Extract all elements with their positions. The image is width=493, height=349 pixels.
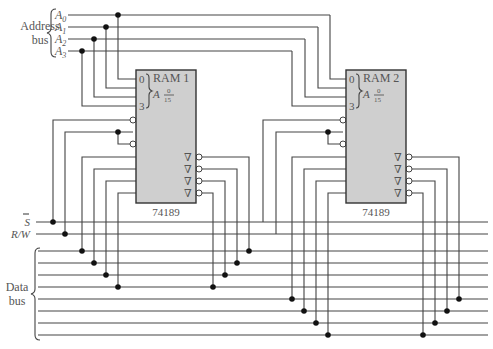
junction-dot (62, 231, 68, 237)
tristate-icon: ∇ (184, 151, 192, 163)
ram2-rw-wire (276, 132, 343, 234)
ram2-addr-top: 0 (349, 73, 355, 85)
junction-dot (289, 296, 295, 302)
data-bus-brace (31, 248, 40, 340)
data-bus-label-2: bus (9, 294, 26, 308)
tristate-icon: ∇ (394, 187, 402, 199)
tristate-icon: ∇ (394, 151, 402, 163)
tristate-icon: ∇ (394, 163, 402, 175)
junction-dot (313, 320, 319, 326)
ram1-name: RAM 1 (153, 71, 189, 85)
ram2-addr-bottom: 3 (349, 100, 355, 112)
junction-dot (234, 260, 240, 266)
ram1-chip: 0 3 RAM 1 A 0 15 ∇ ∇ ∇ ∇ 74189 (136, 70, 196, 218)
ram1-we-bubble (130, 141, 136, 147)
junction-dot (115, 12, 121, 18)
junction-dot (456, 296, 462, 302)
ram2-select-bubble (340, 117, 346, 123)
ram-expansion-diagram: Address bus A0 A1 A2 A3 S R/W (0, 0, 493, 349)
rw-label: R/W (10, 228, 31, 240)
junction-dot (103, 24, 109, 30)
ram2-range-bottom: 15 (374, 96, 382, 104)
ram2-chip: 0 3 RAM 2 A 0 15 ∇ ∇ ∇ ∇ 74189 (346, 70, 406, 218)
junction-dot (301, 308, 307, 314)
ram1-rw-wire (65, 132, 133, 234)
junction-dot (210, 284, 216, 290)
ram2-addr-letter: A (362, 88, 370, 100)
ram2-data-outputs (406, 154, 462, 338)
select-label: S (25, 216, 31, 228)
ram1-range-bottom: 15 (164, 96, 172, 104)
ram1-range-top: 0 (167, 87, 171, 95)
junction-dot (222, 272, 228, 278)
junction-dot (91, 36, 97, 42)
ram2-we-bubble (340, 141, 346, 147)
junction-dot (325, 332, 331, 338)
junction-dot (79, 248, 85, 254)
junction-dot (91, 260, 97, 266)
tristate-icon: ∇ (184, 187, 192, 199)
junction-dot (246, 248, 252, 254)
ram2-part-number: 74189 (362, 206, 390, 218)
data-bus: Data bus (6, 248, 488, 340)
ram1-addr-bottom: 3 (139, 100, 145, 112)
tristate-icon: ∇ (394, 175, 402, 187)
ram2-addr-a0-wire (330, 15, 346, 79)
ram1-addr-a0-wire (118, 15, 136, 79)
junction-dot (115, 284, 121, 290)
ram1-addr-letter: A (152, 88, 160, 100)
junction-dot (325, 129, 331, 135)
ram1-addr-top: 0 (139, 73, 145, 85)
junction-dot (79, 48, 85, 54)
tristate-icon: ∇ (184, 163, 192, 175)
junction-dot (115, 129, 121, 135)
data-bus-label-1: Data (6, 280, 29, 294)
ram2-select-wire (263, 120, 343, 222)
ram2-name: RAM 2 (363, 71, 399, 85)
junction-dot (103, 272, 109, 278)
junction-dot (432, 320, 438, 326)
ram2-range-top: 0 (377, 87, 381, 95)
ram1-data-inputs (79, 157, 136, 290)
ram1-select-bubble (130, 117, 136, 123)
ram1-part-number: 74189 (152, 206, 180, 218)
tristate-icon: ∇ (184, 175, 192, 187)
address-bus-label-2: bus (32, 33, 49, 47)
junction-dot (50, 219, 56, 225)
junction-dot (420, 332, 426, 338)
junction-dot (444, 308, 450, 314)
